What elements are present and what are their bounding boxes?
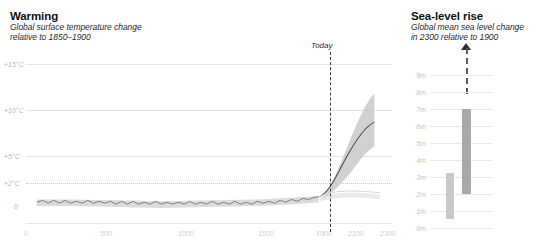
sea-y-label-1m: 1m bbox=[404, 208, 426, 215]
sea-gridline-7m bbox=[430, 109, 492, 110]
sea-gridline-0m bbox=[430, 228, 492, 229]
x-label-1000: 1000 bbox=[178, 230, 194, 237]
sea-level-open-range-line bbox=[466, 48, 468, 94]
warming-panel: Warming Global surface temperature chang… bbox=[0, 0, 400, 250]
sea-gridline-1m bbox=[430, 211, 492, 212]
sea-gridline-9m bbox=[430, 75, 492, 76]
sea-y-label-0m: 0m bbox=[404, 225, 426, 232]
sea-level-panel: Sea-level rise Global mean sea level cha… bbox=[400, 0, 536, 250]
sea-y-label-9m: 9m bbox=[404, 72, 426, 79]
sea-gridline-6m bbox=[430, 126, 492, 127]
sea-gridline-5m bbox=[430, 143, 492, 144]
sea-y-label-7m: 7m bbox=[404, 106, 426, 113]
sea-y-label-6m: 6m bbox=[404, 123, 426, 130]
sea-range-bar-low-emissions bbox=[446, 173, 454, 219]
x-label-0: 0 bbox=[24, 230, 28, 237]
sea-range-bar-high-emissions bbox=[462, 109, 471, 194]
sea-level-subtitle-line2: in 2300 relative to 1900 bbox=[411, 32, 524, 42]
warming-title: Warming bbox=[10, 10, 142, 22]
today-marker-line bbox=[330, 52, 331, 232]
sea-y-label-5m: 5m bbox=[404, 140, 426, 147]
sea-gridline-2m bbox=[430, 194, 492, 195]
sea-level-header: Sea-level rise Global mean sea level cha… bbox=[411, 10, 524, 42]
sea-level-title: Sea-level rise bbox=[411, 10, 524, 22]
x-label-1500: 1500 bbox=[258, 230, 274, 237]
warming-subtitle-line2: relative to 1850–1900 bbox=[10, 32, 142, 42]
sea-y-label-8m: 8m bbox=[404, 89, 426, 96]
x-label-500: 500 bbox=[100, 230, 112, 237]
x-label-2300: 2300 bbox=[380, 230, 396, 237]
sea-y-label-3m: 3m bbox=[404, 174, 426, 181]
warming-header: Warming Global surface temperature chang… bbox=[10, 10, 142, 42]
sea-gridline-4m bbox=[430, 160, 492, 161]
sea-gridline-3m bbox=[430, 177, 492, 178]
sea-gridline-8m bbox=[430, 92, 492, 93]
warming-subtitle-line1: Global surface temperature change bbox=[10, 22, 142, 32]
sea-y-label-2m: 2m bbox=[404, 191, 426, 198]
warming-plot bbox=[0, 58, 400, 223]
x-axis-line bbox=[26, 223, 392, 224]
today-marker-label: Today bbox=[311, 41, 333, 50]
sea-y-label-4m: 4m bbox=[404, 157, 426, 164]
sea-level-subtitle-line1: Global mean sea level change bbox=[411, 22, 524, 32]
x-label-2100: 2100 bbox=[348, 230, 364, 237]
